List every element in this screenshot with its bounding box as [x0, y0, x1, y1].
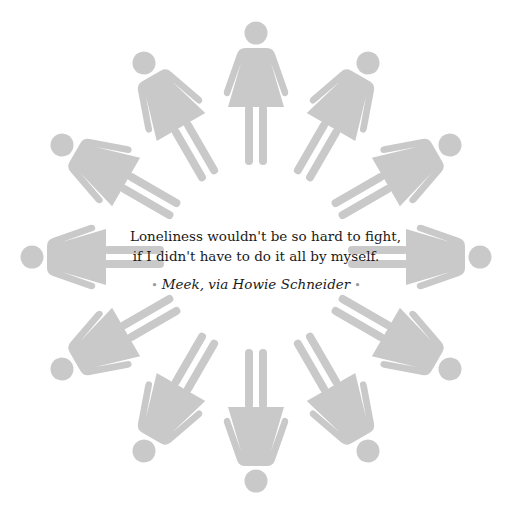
quote-line-2: if I didn't have to do it all by myself. — [130, 246, 382, 266]
female-figure-icon — [224, 22, 289, 166]
bullet-separator-icon: • — [147, 279, 162, 292]
quote-attribution: Meek, via Howie Schneider — [162, 276, 351, 292]
quote-block: Loneliness wouldn't be so hard to fight,… — [130, 226, 382, 292]
female-figure-icon — [224, 349, 289, 493]
bullet-separator-icon: • — [350, 279, 365, 292]
quote-line-1: Loneliness wouldn't be so hard to fight, — [130, 226, 382, 246]
quote-attribution-row: •Meek, via Howie Schneider• — [130, 276, 382, 292]
